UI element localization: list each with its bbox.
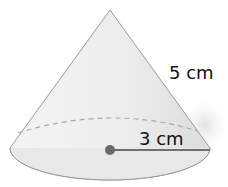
center-dot [105, 145, 115, 155]
cone-diagram: 5 cm 3 cm [0, 0, 228, 187]
radius-label: 3 cm [139, 128, 184, 149]
slant-height-label: 5 cm [169, 62, 214, 83]
